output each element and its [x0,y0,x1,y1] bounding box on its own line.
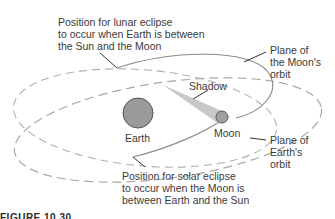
earth-orbit-line-2: Earth's [270,146,309,158]
moon-label: Moon [214,127,240,139]
moon-orbit-plane-label: Plane of the Moon's orbit [270,44,321,80]
moon-orbit-leader [244,52,266,62]
solar-eclipse-line-2: to occur when the Moon is [122,182,249,194]
earth-label: Earth [125,132,150,144]
earth-orbit-line-3: orbit [270,158,309,170]
moon-orbit-line-3: orbit [270,68,321,80]
solar-eclipse-line-1: Position for solar eclipse [122,170,249,182]
shadow-label: Shadow [189,80,227,92]
earth-text: Earth [125,132,150,144]
earth-body [123,98,153,128]
earth-orbit-line-1: Plane of [270,134,309,146]
solar-eclipse-line-3: between Earth and the Sun [122,194,249,206]
earth-orbit-leader [250,138,266,140]
figure-caption: FIGURE 10.30 [0,213,72,219]
moon-body [216,111,228,123]
shadow-text: Shadow [189,80,227,92]
moon-text: Moon [214,127,240,139]
moon-orbit-line-2: the Moon's [270,56,321,68]
moon-orbit-line-1: Plane of [270,44,321,56]
lunar-eclipse-label: Position for lunar eclipse to occur when… [58,16,205,52]
earth-orbit-plane-label: Plane of Earth's orbit [270,134,309,170]
lunar-eclipse-line-3: the Sun and the Moon [58,40,205,52]
lunar-eclipse-line-1: Position for lunar eclipse [58,16,205,28]
lunar-eclipse-line-2: to occur when Earth is between [58,28,205,40]
lunar-eclipse-leader [100,53,117,68]
solar-eclipse-label: Position for solar eclipse to occur when… [122,170,249,206]
eclipse-diagram: Position for lunar eclipse to occur when… [0,0,335,219]
